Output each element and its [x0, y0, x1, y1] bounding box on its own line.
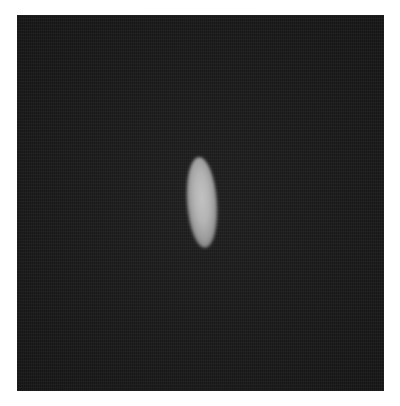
bright-blob	[184, 156, 220, 249]
image-frame: Dark grayscale microscopy-style field wi…	[17, 15, 384, 391]
